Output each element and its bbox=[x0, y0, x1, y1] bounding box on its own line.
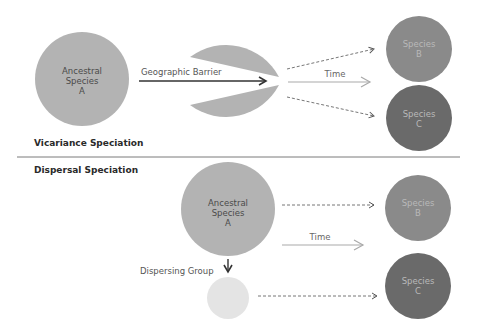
dashed-arrow-to-species-c bbox=[287, 97, 374, 116]
vicariance-section-title: Vicariance Speciation bbox=[34, 138, 143, 148]
species-b-label-line1: Species bbox=[403, 39, 436, 49]
dispersal-ancestral-label-line1: Ancestral bbox=[208, 198, 248, 208]
dispersal-species-c-node: Species C bbox=[385, 253, 451, 319]
dispersal-time-label: Time bbox=[309, 232, 331, 242]
species-b-label-line2: B bbox=[416, 49, 422, 59]
speciation-diagram: Ancestral Species A Geographic Barrier T… bbox=[0, 0, 483, 333]
split-population-bottom-half bbox=[190, 85, 279, 117]
dispersal-species-c-label-line2: C bbox=[415, 286, 421, 296]
dispersal-ancestral-species-node: Ancestral Species A bbox=[181, 162, 275, 256]
species-c-label-line2: C bbox=[416, 119, 422, 129]
time-label: Time bbox=[324, 69, 346, 79]
species-c-label-line1: Species bbox=[403, 109, 436, 119]
dispersal-ancestral-label-line3: A bbox=[225, 218, 231, 228]
dispersal-ancestral-label-line2: Species bbox=[212, 208, 245, 218]
dispersal-section: Dispersal Speciation Ancestral Species A… bbox=[34, 162, 451, 319]
species-b-node: Species B bbox=[386, 16, 452, 82]
dispersal-species-c-label-line1: Species bbox=[402, 276, 435, 286]
dispersal-species-b-node: Species B bbox=[385, 175, 451, 241]
dispersal-species-b-label-line2: B bbox=[415, 208, 421, 218]
species-c-node: Species C bbox=[386, 85, 452, 151]
dashed-arrow-to-species-b bbox=[287, 49, 374, 69]
diagram-svg: Ancestral Species A Geographic Barrier T… bbox=[0, 0, 483, 333]
ancestral-species-node: Ancestral Species A bbox=[35, 32, 129, 126]
ancestral-label-line3: A bbox=[79, 86, 85, 96]
ancestral-label-line2: Species bbox=[66, 76, 99, 86]
vicariance-section: Ancestral Species A Geographic Barrier T… bbox=[34, 16, 452, 151]
dispersal-species-b-label-line1: Species bbox=[402, 198, 435, 208]
dispersing-group-circle bbox=[207, 277, 249, 319]
dispersing-group-label: Dispersing Group bbox=[140, 266, 214, 276]
ancestral-label-line1: Ancestral bbox=[62, 66, 102, 76]
dispersal-section-title: Dispersal Speciation bbox=[34, 165, 138, 175]
geographic-barrier-label: Geographic Barrier bbox=[141, 67, 222, 77]
